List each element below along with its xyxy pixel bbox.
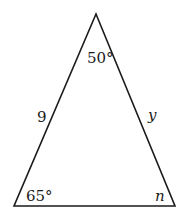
bottom-left-angle-label: 65°	[26, 187, 53, 205]
bottom-right-angle-label: n	[155, 187, 165, 205]
right-side-label: y	[147, 106, 157, 124]
left-side-label: 9	[37, 108, 47, 126]
apex-angle-label: 50°	[87, 49, 114, 67]
triangle-diagram: 50° 65° n 9 y	[0, 0, 184, 224]
